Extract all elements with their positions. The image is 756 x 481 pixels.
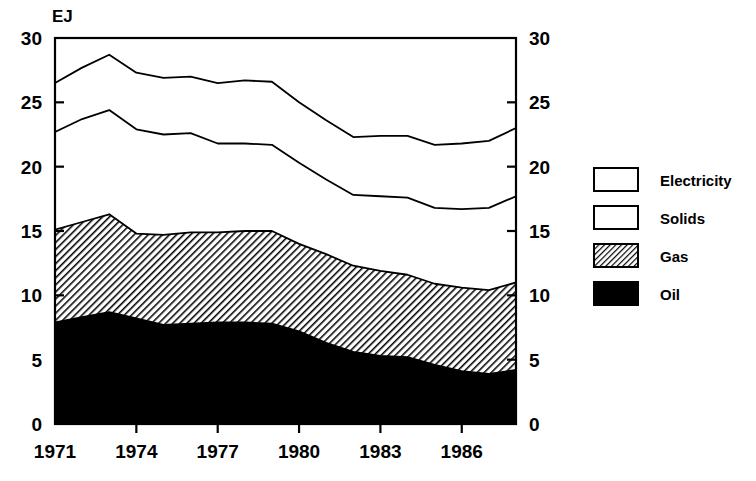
y-tick-label-right: 20 <box>529 157 550 178</box>
y-tick-label-right: 10 <box>529 285 550 306</box>
legend-item-solids[interactable]: Solids <box>594 206 705 229</box>
legend-label-oil: Oil <box>660 286 680 303</box>
y-tick-label-left: 5 <box>31 350 42 371</box>
chart-container: EJ 0055101015152020252530301971197419771… <box>0 0 756 481</box>
legend-label-electricity: Electricity <box>660 172 732 189</box>
chart-legend: ElectricitySolidsGasOil <box>594 168 732 305</box>
legend-swatch-electricity <box>594 168 638 191</box>
y-tick-label-left: 25 <box>21 92 43 113</box>
y-tick-label-left: 20 <box>21 157 42 178</box>
legend-item-electricity[interactable]: Electricity <box>594 168 732 191</box>
legend-swatch-solids <box>594 206 638 229</box>
legend-swatch-oil <box>594 282 638 305</box>
y-axis-unit-label: EJ <box>52 7 73 26</box>
y-tick-label-left: 10 <box>21 285 42 306</box>
x-tick-label: 1980 <box>278 441 320 462</box>
y-tick-label-right: 30 <box>529 28 550 49</box>
y-tick-label-left: 0 <box>31 414 42 435</box>
x-tick-label: 1983 <box>359 441 401 462</box>
y-tick-label-right: 5 <box>529 350 540 371</box>
y-tick-label-left: 15 <box>21 221 43 242</box>
legend-label-gas: Gas <box>660 248 688 265</box>
legend-swatch-gas <box>594 244 638 267</box>
stacked-area-chart: EJ 0055101015152020252530301971197419771… <box>0 0 756 481</box>
y-tick-label-right: 0 <box>529 414 540 435</box>
y-tick-label-left: 30 <box>21 28 42 49</box>
x-tick-label: 1986 <box>441 441 483 462</box>
legend-item-gas[interactable]: Gas <box>594 244 688 267</box>
y-tick-label-right: 25 <box>529 92 551 113</box>
x-tick-label: 1977 <box>197 441 239 462</box>
x-tick-label: 1974 <box>115 441 158 462</box>
legend-label-solids: Solids <box>660 210 705 227</box>
y-tick-label-right: 15 <box>529 221 551 242</box>
x-tick-label: 1971 <box>34 441 77 462</box>
legend-item-oil[interactable]: Oil <box>594 282 680 305</box>
